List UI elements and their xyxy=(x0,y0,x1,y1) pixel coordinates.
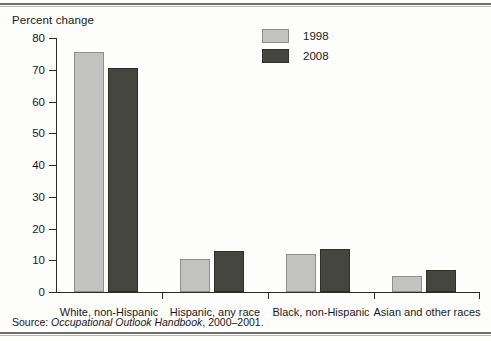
y-tick-label: 30 xyxy=(32,191,45,203)
y-tick-mark xyxy=(49,38,56,39)
bar-1998-1 xyxy=(180,259,210,292)
bottom-rule-secondary xyxy=(0,335,491,336)
y-tick-label: 40 xyxy=(32,159,45,171)
bar-2008-0 xyxy=(108,68,138,292)
x-axis-separator xyxy=(268,292,269,299)
bar-2008-2 xyxy=(320,249,350,292)
category-label: Black, non-Hispanic xyxy=(272,306,369,318)
y-tick-label: 70 xyxy=(32,64,45,76)
bar-2008-1 xyxy=(214,251,244,292)
top-rule xyxy=(0,3,491,5)
x-axis-separator xyxy=(479,292,480,299)
y-tick-label: 20 xyxy=(32,223,45,235)
bar-1998-2 xyxy=(286,254,316,292)
y-tick-mark xyxy=(49,197,56,198)
chart-axis-title: Percent change xyxy=(12,14,94,26)
y-tick-label: 80 xyxy=(32,32,45,44)
source-note: Source: Occupational Outlook Handbook, 2… xyxy=(12,316,264,328)
y-tick-mark xyxy=(49,70,56,71)
source-prefix: Source: xyxy=(12,316,51,328)
source-suffix: , 2000–2001. xyxy=(202,316,263,328)
y-tick-label: 60 xyxy=(32,96,45,108)
y-tick-label: 50 xyxy=(32,127,45,139)
y-tick-mark xyxy=(49,260,56,261)
y-axis-line xyxy=(56,38,57,293)
x-axis-separator xyxy=(162,292,163,299)
y-tick-mark xyxy=(49,133,56,134)
y-tick-label: 10 xyxy=(32,254,45,266)
bar-1998-0 xyxy=(74,52,104,292)
plot-area: 01020304050607080 White, non-HispanicHis… xyxy=(56,38,480,292)
bottom-rule xyxy=(0,332,491,334)
y-tick-mark xyxy=(49,292,56,293)
bar-2008-3 xyxy=(426,270,456,292)
top-rule-secondary xyxy=(0,6,491,7)
bar-1998-3 xyxy=(392,276,422,292)
category-label: Asian and other races xyxy=(373,306,480,318)
source-title: Occupational Outlook Handbook xyxy=(51,316,202,328)
y-tick-mark xyxy=(49,102,56,103)
y-tick-label: 0 xyxy=(39,286,45,298)
figure-container: Percent change 1998 2008 010203040506070… xyxy=(0,0,491,341)
y-tick-mark xyxy=(49,165,56,166)
x-axis-separator xyxy=(374,292,375,299)
y-tick-mark xyxy=(49,229,56,230)
